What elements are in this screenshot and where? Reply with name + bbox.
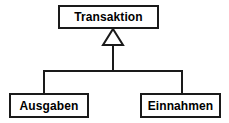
class-node-ausgaben[interactable]: Ausgaben bbox=[9, 93, 89, 118]
class-node-transaktion-label: Transaktion bbox=[74, 11, 142, 23]
class-node-einnahmen-label: Einnahmen bbox=[148, 100, 214, 112]
class-node-transaktion[interactable]: Transaktion bbox=[58, 5, 159, 29]
class-node-einnahmen[interactable]: Einnahmen bbox=[140, 93, 221, 118]
uml-generalization-diagram: Transaktion Ausgaben Einnahmen bbox=[0, 0, 229, 123]
generalization-triangle-arrowhead-icon bbox=[103, 29, 123, 45]
class-node-ausgaben-label: Ausgaben bbox=[20, 100, 79, 112]
